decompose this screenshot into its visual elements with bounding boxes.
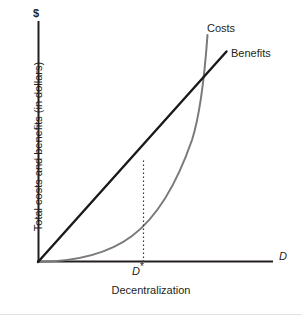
dstar-superscript: * xyxy=(140,261,144,272)
series-line-costs xyxy=(38,35,208,262)
y-axis-currency-symbol: $ xyxy=(33,8,39,19)
series-line-benefits xyxy=(38,52,227,263)
series-label-benefits: Benefits xyxy=(231,48,271,59)
x-axis-variable-symbol: D xyxy=(279,251,287,262)
series-label-costs: Costs xyxy=(207,23,235,34)
dstar-base: D xyxy=(132,265,140,277)
dstar-annotation-label: D* xyxy=(132,266,144,277)
chart-figure: $ Total costs and benefits (in dollars) … xyxy=(0,0,302,315)
x-axis-title: Decentralization xyxy=(0,285,302,296)
y-axis-title: Total costs and benefits (in dollars) xyxy=(33,37,44,257)
